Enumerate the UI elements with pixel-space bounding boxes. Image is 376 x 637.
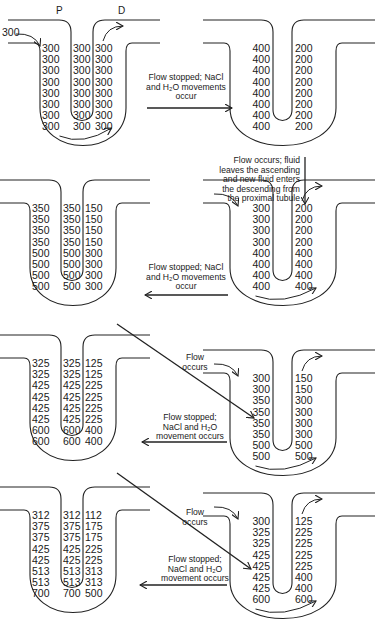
descending-value: 350 — [252, 417, 270, 429]
ascending-value: 225 — [85, 402, 103, 414]
caption-flow-stopped-1: Flow stopped; NaCland H₂O movementsoccur — [146, 72, 226, 101]
descending-value: 350 — [32, 224, 50, 236]
inflow-arrow-icon — [214, 507, 238, 519]
descending-value: 500 — [32, 269, 50, 281]
ascending-value: 200 — [295, 109, 313, 121]
ascending-value: 200 — [295, 202, 313, 214]
ascending-value: 225 — [295, 526, 313, 538]
loop-loop6: 3001503001503503003503003503003503005005… — [203, 350, 375, 476]
interstitial-value: 500 — [63, 247, 81, 259]
inflow-value: 300 — [2, 26, 20, 38]
descending-value: 500 — [252, 450, 270, 462]
interstitial-value: 325 — [63, 368, 81, 380]
descending-value: 400 — [252, 42, 270, 54]
proximal-label: P — [56, 5, 63, 16]
ascending-value: 125 — [85, 357, 103, 369]
caption-line: occurs — [182, 517, 207, 527]
descending-value: 400 — [252, 87, 270, 99]
descending-value: 400 — [252, 64, 270, 76]
descending-value: 400 — [252, 109, 270, 121]
ascending-value: 300 — [295, 428, 313, 440]
descending-value: 400 — [252, 280, 270, 292]
caption-line: and H₂O movements — [146, 82, 226, 92]
interstitial-value: 300 — [73, 76, 91, 88]
caption-line: NaCl and H₂O — [163, 422, 218, 432]
ascending-value: 200 — [295, 64, 313, 76]
ascending-value: 225 — [295, 560, 313, 572]
descending-value: 500 — [252, 439, 270, 451]
ascending-value: 200 — [295, 213, 313, 225]
distal-label: D — [118, 5, 125, 16]
ascending-value: 150 — [295, 383, 313, 395]
interstitial-value: 425 — [63, 554, 81, 566]
outflow-arrow-icon — [302, 499, 322, 514]
descending-value: 350 — [32, 213, 50, 225]
descending-value: 350 — [252, 406, 270, 418]
interstitial-value: 425 — [63, 379, 81, 391]
caption-line: Flow stopped; — [163, 412, 217, 422]
descending-value: 425 — [252, 582, 270, 594]
descending-value: 375 — [32, 531, 50, 543]
ascending-value: 150 — [85, 213, 103, 225]
ascending-value: 200 — [295, 224, 313, 236]
interstitial-value: 700 — [63, 587, 81, 599]
descending-value: 425 — [252, 571, 270, 583]
caption-line: occur — [175, 281, 196, 291]
descending-value: 600 — [32, 435, 50, 447]
caption-line: Flow — [186, 352, 205, 362]
caption-line: occurs — [182, 362, 207, 372]
ascending-value: 300 — [95, 53, 113, 65]
descending-value: 350 — [252, 428, 270, 440]
interstitial-value: 300 — [73, 98, 91, 110]
ascending-value: 300 — [95, 98, 113, 110]
caption-line: leaves the ascending — [219, 165, 300, 175]
ascending-value: 225 — [85, 379, 103, 391]
descending-value: 425 — [32, 543, 50, 555]
descending-value: 425 — [252, 549, 270, 561]
ascending-value: 300 — [95, 64, 113, 76]
caption-flow-occurs-2: Flowoccurs — [182, 507, 207, 527]
descending-value: 300 — [42, 87, 60, 99]
ascending-value: 200 — [295, 98, 313, 110]
ascending-value: 300 — [295, 394, 313, 406]
inflow-arrow-icon — [214, 364, 238, 376]
ascending-value: 300 — [95, 87, 113, 99]
ascending-value: 150 — [85, 202, 103, 214]
caption-flow-occurs-proximal: Flow occurs; fluidleaves the ascendingan… — [219, 155, 300, 203]
interstitial-value: 300 — [73, 42, 91, 54]
ascending-value: 400 — [85, 435, 103, 447]
ascending-value: 400 — [295, 258, 313, 270]
ascending-value: 125 — [295, 515, 313, 527]
interstitial-value: 300 — [73, 64, 91, 76]
ascending-value: 300 — [95, 109, 113, 121]
interstitial-value: 500 — [63, 258, 81, 270]
interstitial-value: 425 — [63, 413, 81, 425]
ascending-value: 300 — [95, 42, 113, 54]
caption-flow-stopped-3: Flow stopped;NaCl and H₂Omovement occurs — [156, 412, 224, 441]
descending-value: 500 — [32, 247, 50, 259]
descending-value: 300 — [42, 120, 60, 132]
ascending-value: 300 — [95, 120, 113, 132]
ascending-value: 175 — [85, 520, 103, 532]
loop-loop1: 3003003003003003003003003003003003003003… — [2, 5, 160, 146]
ascending-value: 225 — [85, 391, 103, 403]
interstitial-value: 350 — [63, 202, 81, 214]
interstitial-value: 500 — [63, 280, 81, 292]
interstitial-value: 350 — [63, 224, 81, 236]
descending-value: 425 — [32, 391, 50, 403]
descending-value: 300 — [252, 372, 270, 384]
interstitial-value: 513 — [63, 565, 81, 577]
descending-value: 350 — [32, 236, 50, 248]
ascending-value: 313 — [85, 576, 103, 588]
descending-value: 425 — [32, 379, 50, 391]
ascending-value: 400 — [85, 424, 103, 436]
ascending-value: 200 — [295, 87, 313, 99]
descending-value: 300 — [42, 42, 60, 54]
ascending-value: 200 — [295, 53, 313, 65]
ascending-value: 300 — [85, 280, 103, 292]
caption-line: and new fluid enters — [223, 174, 300, 184]
descending-value: 500 — [32, 258, 50, 270]
descending-value: 400 — [252, 76, 270, 88]
ascending-value: 500 — [295, 439, 313, 451]
ascending-value: 400 — [295, 582, 313, 594]
